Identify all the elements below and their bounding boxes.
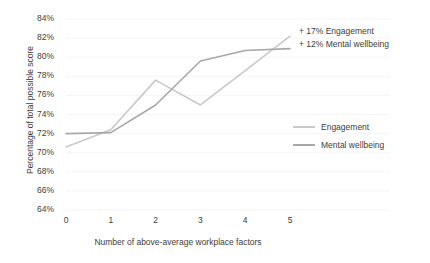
y-tick-label: 72% xyxy=(18,129,54,138)
annotation-mental-wellbeing: + 12% Mental wellbeing xyxy=(299,38,389,51)
legend-item-mental-wellbeing[interactable]: Mental wellbeing xyxy=(293,136,384,154)
y-tick-label: 76% xyxy=(18,90,54,99)
x-axis-title: Number of above-average workplace factor… xyxy=(58,237,298,247)
legend-item-engagement[interactable]: Engagement xyxy=(293,118,384,136)
legend-line-swatch-mental-wellbeing xyxy=(293,144,315,146)
legend-label-engagement: Engagement xyxy=(321,122,369,132)
y-tick-label: 78% xyxy=(18,71,54,80)
y-tick-label: 70% xyxy=(18,148,54,157)
chart-legend: Engagement Mental wellbeing xyxy=(293,118,384,154)
x-tick-label: 5 xyxy=(278,215,302,225)
x-tick-label: 2 xyxy=(144,215,168,225)
x-tick-label: 3 xyxy=(188,215,212,225)
series-lines xyxy=(66,36,290,147)
legend-line-swatch-engagement xyxy=(293,126,315,128)
line-chart: 64%66%68%70%72%74%76%78%80%82%84% 012345… xyxy=(0,0,430,263)
y-tick-label: 74% xyxy=(18,110,54,119)
chart-annotations: + 17% Engagement + 12% Mental wellbeing xyxy=(299,25,389,50)
x-tick-label: 0 xyxy=(54,215,78,225)
y-tick-label: 68% xyxy=(18,167,54,176)
legend-label-mental-wellbeing: Mental wellbeing xyxy=(321,140,384,150)
annotation-engagement: + 17% Engagement xyxy=(299,25,389,38)
x-tick-label: 1 xyxy=(99,215,123,225)
y-axis-title: Percentage of total possible score xyxy=(25,20,35,200)
y-tick-label: 80% xyxy=(18,52,54,61)
y-tick-label: 64% xyxy=(18,205,54,214)
y-tick-label: 66% xyxy=(18,186,54,195)
y-tick-label: 82% xyxy=(18,33,54,42)
series-line-engagement xyxy=(66,36,290,147)
x-tick-label: 4 xyxy=(233,215,257,225)
y-tick-label: 84% xyxy=(18,14,54,23)
